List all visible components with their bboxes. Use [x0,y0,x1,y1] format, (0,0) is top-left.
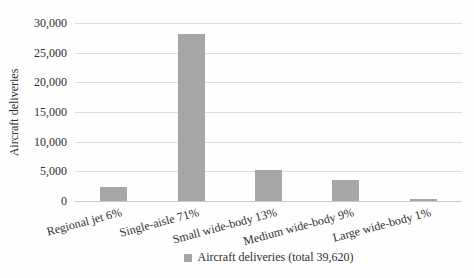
y-tick-label: 0 [0,195,67,208]
gridline [75,82,462,83]
gridline [75,112,462,113]
gridline [75,53,462,54]
gridline [75,142,462,143]
y-tick-label: 25,000 [0,47,67,60]
legend: Aircraft deliveries (total 39,620) [75,250,462,265]
y-tick-label: 10,000 [0,136,67,149]
x-tick-label-regional-jet-6: Regional jet 6% [45,206,123,239]
bar-medium-wide-body-9 [332,180,359,201]
bar-regional-jet-6 [100,187,127,201]
legend-label: Aircraft deliveries (total 39,620) [198,250,354,265]
x-axis-line [75,201,462,202]
y-tick-label: 20,000 [0,76,67,89]
bar-large-wide-body-1 [410,199,437,201]
aircraft-deliveries-bar-chart: Aircraft deliveries Aircraft deliveries … [0,0,474,278]
legend-swatch-icon [184,254,192,262]
y-tick-label: 15,000 [0,106,67,119]
gridline [75,23,462,24]
y-tick-label: 30,000 [0,17,67,30]
y-tick-label: 5,000 [0,165,67,178]
bar-small-wide-body-13 [255,170,282,201]
plot-area [75,23,462,201]
bar-single-aisle-71 [178,34,205,201]
